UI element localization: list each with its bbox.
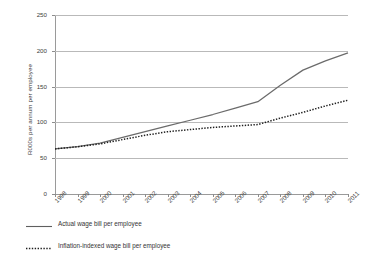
- legend-label-inflation-indexed: Inflation-indexed wage bill per employee: [58, 242, 170, 249]
- x-tick-label: 2011: [346, 190, 360, 204]
- y-tick-mark: [52, 158, 55, 159]
- y-tick-mark: [52, 122, 55, 123]
- y-tick-label: 250: [25, 11, 47, 18]
- chart-legend: Actual wage bill per employee Inflation-…: [26, 219, 356, 263]
- y-tick-label: 200: [25, 47, 47, 54]
- legend-item-actual: Actual wage bill per employee: [26, 219, 356, 241]
- gridline: [55, 158, 348, 159]
- legend-item-inflation-indexed: Inflation-indexed wage bill per employee: [26, 241, 356, 263]
- gridline: [55, 87, 348, 88]
- y-tick-label: 0: [25, 190, 47, 197]
- legend-label-actual: Actual wage bill per employee: [58, 220, 142, 227]
- line-chart: R000s per annum per employee 05010015020…: [0, 0, 373, 266]
- y-tick-label: 50: [25, 154, 47, 161]
- gridline: [55, 51, 348, 52]
- gridline: [55, 122, 348, 123]
- y-tick-label: 150: [25, 83, 47, 90]
- plot-area: [55, 15, 348, 194]
- gridline: [55, 15, 348, 16]
- y-tick-mark: [52, 15, 55, 16]
- legend-swatch-solid-icon: [26, 224, 52, 229]
- y-tick-mark: [52, 87, 55, 88]
- y-tick-mark: [52, 51, 55, 52]
- y-axis-title: R000s per annum per employee: [26, 35, 33, 185]
- legend-swatch-dotted-icon: [26, 246, 52, 251]
- y-tick-label: 100: [25, 118, 47, 125]
